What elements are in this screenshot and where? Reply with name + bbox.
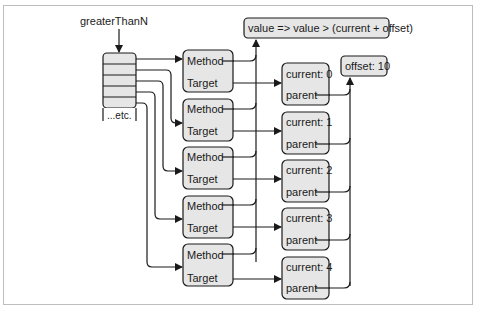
method-connectors [230, 40, 256, 262]
delegate-4: Method Target [183, 244, 233, 286]
closure-current: current: 4 [286, 261, 332, 273]
delegate-method: Method [187, 55, 224, 67]
delegate-target: Target [187, 272, 218, 284]
delegate-target: Target [187, 125, 218, 137]
closure-current: current: 1 [286, 116, 332, 128]
delegate-closure-diagram: greaterThanN ...etc. value => value > (c… [0, 0, 479, 312]
closure-3: current: 3 parent [282, 208, 332, 250]
closure-parent: parent [286, 234, 317, 246]
delegate-method: Method [187, 200, 224, 212]
closure-0: current: 0 parent [282, 63, 332, 105]
offset-box: offset: 10 [341, 56, 390, 76]
array-more-label: ...etc. [107, 110, 131, 121]
array-connectors [136, 59, 182, 267]
closure-2: current: 2 parent [282, 160, 332, 202]
delegate-1: Method Target [183, 99, 233, 141]
delegate-0: Method Target [183, 50, 233, 92]
offset-label: offset: 10 [345, 60, 390, 72]
delegate-method: Method [187, 151, 224, 163]
closure-parent: parent [286, 186, 317, 198]
function-text: value => value > (current + offset) [248, 22, 413, 34]
closure-parent: parent [286, 138, 317, 150]
closure-current: current: 3 [286, 212, 332, 224]
closure-parent: parent [286, 282, 317, 294]
delegate-2: Method Target [183, 147, 233, 189]
closure-current: current: 0 [286, 68, 332, 80]
invocation-array: ...etc. [103, 53, 136, 124]
closure-1: current: 1 parent [282, 112, 332, 154]
delegate-method: Method [187, 103, 224, 115]
variable-label: greaterThanN [80, 15, 148, 27]
function-box: value => value > (current + offset) [244, 18, 413, 38]
delegate-target: Target [187, 173, 218, 185]
closure-4: current: 4 parent [282, 257, 332, 299]
delegate-method: Method [187, 249, 224, 261]
closure-parent: parent [286, 89, 317, 101]
closure-current: current: 2 [286, 164, 332, 176]
delegate-3: Method Target [183, 196, 233, 238]
delegate-target: Target [187, 222, 218, 234]
delegate-target: Target [187, 77, 218, 89]
